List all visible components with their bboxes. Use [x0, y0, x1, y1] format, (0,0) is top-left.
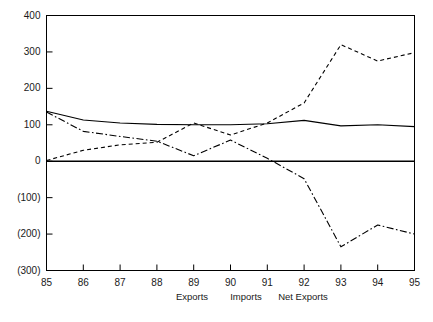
- y-axis-tick-label: 100: [24, 120, 41, 130]
- legend-label: Net Exports: [272, 291, 334, 302]
- legend-item-imports[interactable]: Imports: [224, 291, 268, 304]
- chart-container: 4003002001000(100)(200)(300) 85868788899…: [0, 0, 433, 322]
- y-axis-tick-label: 200: [24, 83, 41, 93]
- x-axis-tick-label: 86: [63, 278, 103, 288]
- y-axis-tick-label: 300: [24, 47, 41, 57]
- x-axis-tick-label: 94: [358, 278, 398, 288]
- legend-item-exports[interactable]: Exports: [168, 291, 216, 304]
- chart-legend: ExportsImportsNet Exports: [168, 291, 318, 313]
- y-axis-tick-label: (100): [17, 193, 40, 203]
- line-chart: [0, 0, 433, 322]
- x-axis-tick-label: 91: [247, 278, 287, 288]
- x-axis-tick-label: 90: [211, 278, 251, 288]
- y-axis-tick-label: (300): [17, 266, 40, 276]
- legend-label: Exports: [168, 291, 216, 302]
- x-axis-tick-label: 95: [395, 278, 433, 288]
- legend-item-net-exports[interactable]: Net Exports: [272, 291, 334, 304]
- x-axis-tick-label: 92: [284, 278, 324, 288]
- y-axis-tick-label: 0: [35, 156, 41, 166]
- x-axis-tick-label: 87: [100, 278, 140, 288]
- x-axis-tick-label: 93: [321, 278, 361, 288]
- y-axis-tick-label: 400: [24, 11, 41, 21]
- x-axis-tick-label: 89: [174, 278, 214, 288]
- legend-label: Imports: [224, 291, 268, 302]
- x-axis-tick-label: 88: [137, 278, 177, 288]
- y-axis-tick-label: (200): [17, 229, 40, 239]
- x-axis-tick-label: 85: [27, 278, 67, 288]
